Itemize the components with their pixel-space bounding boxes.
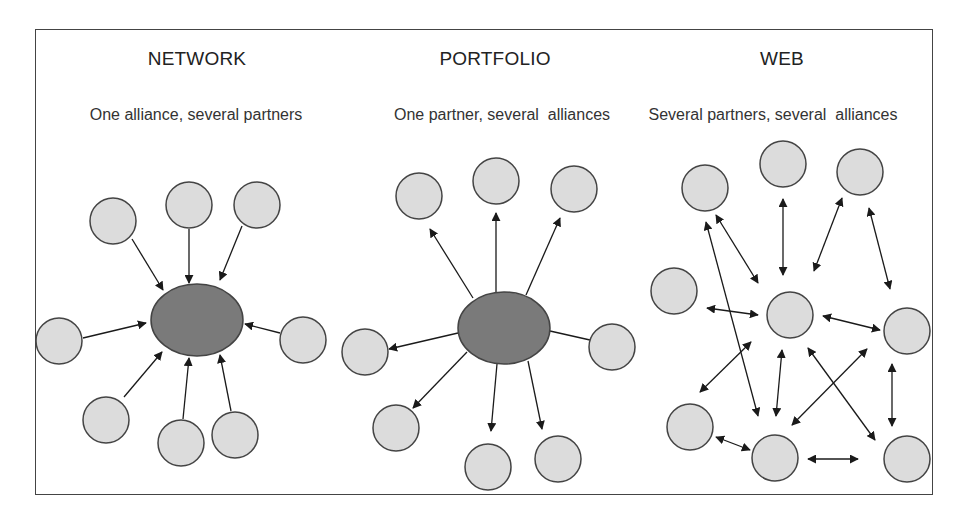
portfolio-partner-node [473,158,519,204]
network-partner-node [158,420,204,466]
portfolio-partner-node [551,166,597,212]
portfolio-partner-node [342,329,388,375]
web-edge-arrow [814,198,842,271]
network-partner-node [36,318,82,364]
web-partner-node [837,149,883,195]
web-edge-arrow [706,222,758,416]
network-partner-node [212,412,258,458]
portfolio-partner-node [535,436,581,482]
web-partner-node [752,435,798,481]
network-edge-arrow [220,226,242,280]
portfolio-edge-arrow [550,331,590,340]
network-partner-node [166,182,212,228]
network-partner-node [280,317,326,363]
network-edge-arrow [220,355,231,411]
web-edge-arrow [808,348,875,440]
network-edge-arrow [132,239,163,290]
web-edge-arrow [716,215,758,283]
portfolio-edge-arrow [491,364,497,431]
alliance-types-diagram: NETWORK PORTFOLIO WEB One alliance, seve… [0,0,968,520]
web-partner-node [884,308,930,354]
web-partner-node [667,404,713,450]
nodes-layer [36,141,930,490]
web-edge-arrow [716,437,750,450]
network-edge-arrow [124,352,162,397]
network-edge-arrow [245,324,280,333]
web-edge-arrow [776,350,782,416]
web-edge-arrow [869,208,890,289]
portfolio-partner-node [373,405,419,451]
portfolio-partner-node [396,173,442,219]
web-partner-node [682,165,728,211]
network-partner-node [90,198,136,244]
portfolio-hub-ellipse [458,292,550,364]
web-edge-arrow [823,316,880,330]
network-hub-ellipse [151,284,243,356]
network-edge-arrow [83,323,146,338]
web-edge-arrow [700,342,751,392]
portfolio-edge-arrow [528,361,542,429]
web-partner-node [884,436,930,482]
web-partner-node [651,268,697,314]
web-edge-arrow [707,308,758,315]
network-graphs [0,0,968,520]
network-edge-arrow [183,358,189,419]
network-partner-node [83,397,129,443]
web-partner-node [767,292,813,338]
portfolio-partner-node [465,444,511,490]
network-partner-node [234,182,280,228]
portfolio-edge-arrow [413,352,467,408]
portfolio-edge-arrow [526,218,560,295]
portfolio-edge-arrow [389,333,458,349]
portfolio-edge-arrow [430,229,473,298]
portfolio-partner-node [589,324,635,370]
web-partner-node [760,141,806,187]
